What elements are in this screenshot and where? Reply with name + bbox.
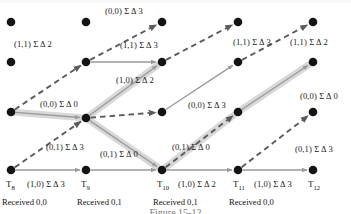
trellis-state-node — [234, 166, 243, 175]
figure-caption: Figure 15-12 — [0, 208, 351, 214]
edge-label: (1,0) Σ Δ 2 — [178, 180, 216, 189]
edge-label: (0,0) Σ Δ 0 — [300, 92, 338, 101]
trellis-state-node — [309, 58, 318, 67]
edge-label: (0,1) Σ Δ 3 — [46, 143, 84, 152]
trellis-state-node — [7, 108, 16, 117]
time-step-index: 11 — [239, 184, 245, 191]
trellis-figure: (1,1) Σ Δ 2(0,0) Σ Δ 0(0,1) Σ Δ 3(1,0) Σ… — [0, 0, 351, 214]
trellis-state-node — [309, 108, 318, 117]
trellis-state-node — [309, 18, 318, 27]
time-step-label-t12: T12 — [308, 180, 320, 191]
time-step-index: 8 — [12, 184, 15, 191]
edge-label: (0,1) Σ Δ 3 — [295, 145, 333, 154]
trellis-state-node — [82, 114, 91, 123]
time-step-label-t10: T10 — [157, 180, 169, 191]
trellis-state-node — [7, 18, 16, 27]
transition-edge-dashed — [166, 25, 232, 60]
trellis-state-node — [82, 166, 91, 175]
trellis-state-node — [158, 108, 167, 117]
edge-label: (1,0) Σ Δ 3 — [254, 180, 292, 189]
edge-label: (1,1) Σ Δ 2 — [14, 40, 52, 49]
trellis-state-node — [158, 58, 167, 67]
time-step-label-t11: T11 — [233, 180, 245, 191]
received-bits-t8: Received 0,0 — [2, 198, 47, 207]
received-bits-t9: Received 0,1 — [77, 198, 122, 207]
transition-edge-solid — [242, 65, 308, 109]
trellis-state-node — [82, 18, 91, 27]
edge-label: (1,1) Σ Δ 3 — [233, 38, 271, 47]
edge-label: (0,0) Σ Δ 3 — [105, 7, 143, 16]
edge-label: (1,1) Σ Δ 3 — [120, 41, 158, 50]
time-step-index: 12 — [314, 184, 321, 191]
trellis-state-node — [234, 18, 243, 27]
trellis-state-node — [234, 58, 243, 67]
edge-label: (0,0) Σ Δ 0 — [40, 100, 78, 109]
edge-label: (0,1) Σ Δ 0 — [172, 143, 210, 152]
time-step-label-t8: T8 — [6, 180, 15, 191]
trellis-state-node — [82, 58, 91, 67]
trellis-state-node — [309, 166, 318, 175]
edge-label: (1,0) Σ Δ 3 — [27, 180, 65, 189]
trellis-state-node — [158, 166, 167, 175]
time-step-label-t9: T9 — [81, 180, 90, 191]
edge-label: (0,1) Σ Δ 0 — [100, 150, 138, 159]
trellis-state-node — [7, 166, 16, 175]
received-bits-t11: Received 0,0 — [229, 198, 274, 207]
transition-edge-solid — [90, 121, 157, 167]
edge-label: (0,0) Σ Δ 3 — [188, 101, 226, 110]
edge-label: (1,1) Σ Δ 2 — [290, 38, 328, 47]
time-step-index: 9 — [87, 184, 90, 191]
received-bits-t10: Received 0,1 — [153, 198, 198, 207]
time-step-index: 10 — [163, 184, 170, 191]
trellis-state-node — [158, 18, 167, 27]
trellis-state-node — [7, 58, 16, 67]
transition-edge-dashed — [242, 116, 308, 167]
edge-label: (1,0) Σ Δ 2 — [116, 76, 154, 85]
transition-edge-solid — [90, 66, 157, 116]
trellis-state-node — [234, 108, 243, 117]
transition-edge-dashed — [91, 112, 156, 117]
